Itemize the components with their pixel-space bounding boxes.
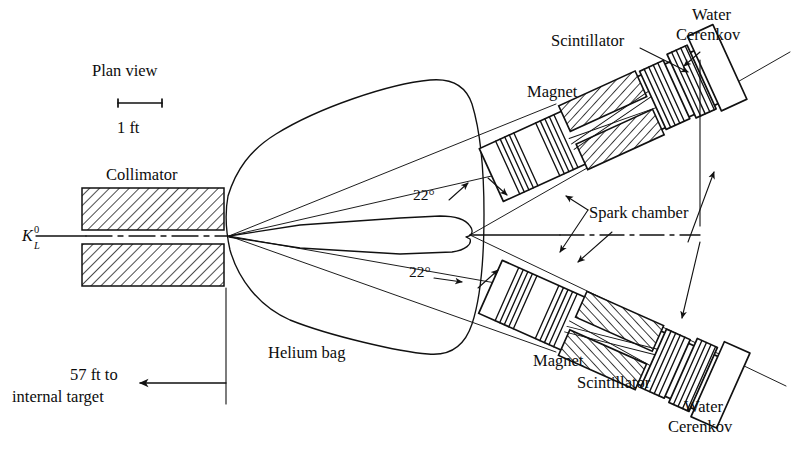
angle-label-lower: 22° [409, 263, 431, 280]
water-cerenkov-upper-line2: Cerenkov [676, 25, 741, 44]
magnet-label-upper: Magnet [527, 82, 578, 101]
beam-k-symbol: K [21, 227, 34, 244]
figure-canvas: Plan view 1 ft Collimator K 0 L 22° 22° … [0, 0, 800, 454]
apparatus-plan-view-diagram: Plan view 1 ft Collimator K 0 L 22° 22° … [0, 0, 800, 454]
water-cerenkov-upper-line1: Water [692, 5, 731, 24]
collimator-lower-block [82, 244, 224, 286]
beam-superscript: 0 [34, 224, 39, 235]
collimator-upper-block [82, 188, 224, 230]
scintillator-label-lower: Scintillator [577, 373, 651, 392]
magnet-label-lower: Magnet [533, 351, 584, 370]
collimator-label: Collimator [106, 165, 178, 184]
scale-bar-label: 1 ft [117, 118, 140, 137]
angle-label-upper: 22° [413, 186, 435, 203]
distance-label-line2: internal target [12, 387, 104, 406]
helium-bag-label: Helium bag [268, 343, 345, 362]
water-cerenkov-lower-line1: Water [684, 397, 723, 416]
spark-chamber-label: Spark chamber [589, 203, 689, 222]
distance-label-line1: 57 ft to [70, 365, 118, 384]
water-cerenkov-lower-line2: Cerenkov [668, 417, 733, 436]
plan-view-label: Plan view [92, 61, 158, 80]
beam-subscript: L [33, 240, 40, 251]
scintillator-label-upper: Scintillator [551, 31, 625, 50]
